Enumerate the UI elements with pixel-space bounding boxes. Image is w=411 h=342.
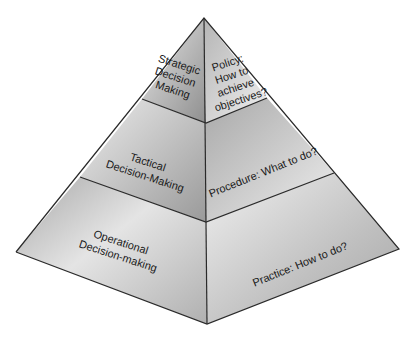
pyramid-diagram: Strategic Decision Making Policy: How to… [0, 0, 411, 342]
